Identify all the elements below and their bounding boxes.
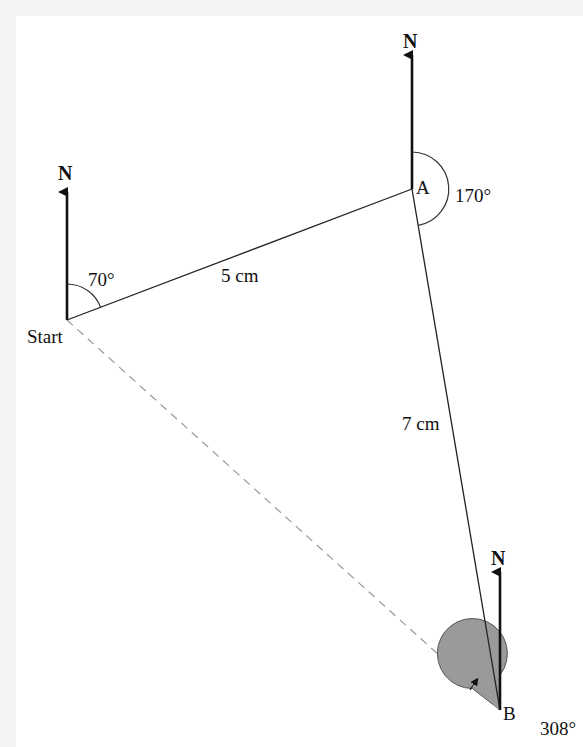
angle-label-start: 70° — [88, 269, 115, 290]
b-angle-sector — [437, 619, 507, 710]
distance-label-a-b: 7 cm — [402, 413, 440, 434]
north-label-a: N — [403, 30, 418, 52]
point-label-a: A — [416, 177, 430, 198]
point-label-b: B — [503, 703, 516, 724]
distance-label-start-a: 5 cm — [221, 265, 259, 286]
north-label-start: N — [58, 162, 73, 184]
start-to-a-line — [67, 189, 412, 320]
start-to-b-dashed-line — [67, 320, 500, 710]
north-label-b: N — [491, 547, 506, 569]
angle-label-b: 308° — [540, 718, 576, 739]
bearings-diagram: N N N Start A B 70° 170° 308° 5 cm 7 cm — [0, 0, 583, 747]
angle-label-a: 170° — [455, 185, 491, 206]
point-label-start: Start — [27, 326, 64, 347]
